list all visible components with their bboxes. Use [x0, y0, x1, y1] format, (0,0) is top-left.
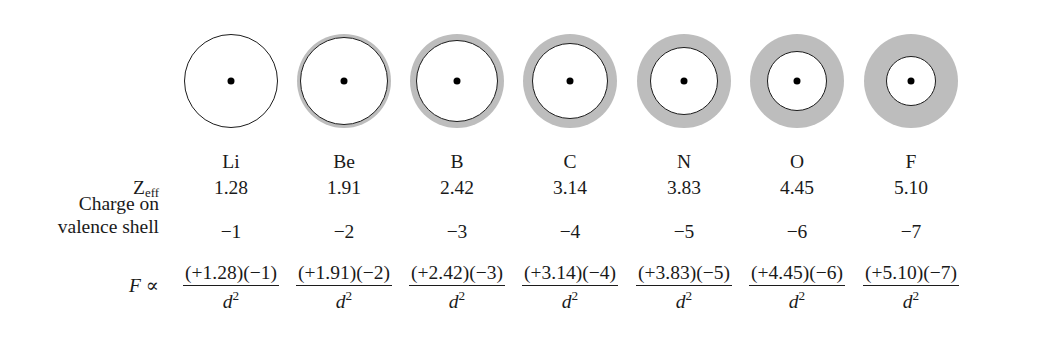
force-expression-o: (+4.45)(−6)d2	[741, 262, 853, 313]
force-expression-f: (+5.10)(−7)d2	[855, 262, 967, 313]
denominator: d2	[636, 286, 732, 313]
figure-root: LiBeBCNOF Zeff 1.281.912.423.143.834.455…	[0, 0, 1060, 355]
denominator: d2	[296, 286, 392, 313]
denominator: d2	[183, 286, 279, 313]
element-symbol-f: F	[855, 150, 967, 173]
force-row-label: F ∝	[129, 274, 159, 297]
atom-n	[637, 34, 731, 128]
zeff-value-li: 1.28	[175, 176, 287, 199]
zeff-value-n: 3.83	[628, 176, 740, 199]
zeff-value-be: 1.91	[288, 176, 400, 199]
element-symbol-be: Be	[288, 150, 400, 173]
force-expression-c: (+3.14)(−4)d2	[514, 262, 626, 313]
numerator: (+1.91)(−2)	[296, 262, 392, 286]
valence-charge-b: −3	[401, 220, 513, 243]
element-symbol-n: N	[628, 150, 740, 173]
atom-f	[864, 34, 958, 128]
nucleus-dot	[454, 78, 461, 85]
nucleus-dot	[341, 78, 348, 85]
charge-label-line2: valence shell	[58, 216, 159, 237]
valence-charge-row: Charge on valence shell −1−2−3−4−5−6−7	[0, 206, 1060, 262]
numerator: (+1.28)(−1)	[183, 262, 279, 286]
numerator: (+5.10)(−7)	[863, 262, 959, 286]
charge-row-label: Charge on valence shell	[58, 192, 159, 238]
force-expression-b: (+2.42)(−3)d2	[401, 262, 513, 313]
atom-li	[184, 34, 278, 128]
nucleus-dot	[794, 78, 801, 85]
zeff-value-f: 5.10	[855, 176, 967, 199]
numerator: (+3.83)(−5)	[636, 262, 732, 286]
numerator: (+4.45)(−6)	[749, 262, 845, 286]
denominator: d2	[863, 286, 959, 313]
force-expression-li: (+1.28)(−1)d2	[175, 262, 287, 313]
force-equation-row: F ∝ (+1.28)(−1)d2(+1.91)(−2)d2(+2.42)(−3…	[0, 262, 1060, 328]
zeff-value-b: 2.42	[401, 176, 513, 199]
element-symbol-c: C	[514, 150, 626, 173]
zeff-value-o: 4.45	[741, 176, 853, 199]
atom-b	[410, 34, 504, 128]
denominator: d2	[409, 286, 505, 313]
nucleus-dot	[681, 78, 688, 85]
valence-charge-li: −1	[175, 220, 287, 243]
valence-charge-f: −7	[855, 220, 967, 243]
proportional-symbol: ∝	[146, 275, 159, 296]
force-expression-be: (+1.91)(−2)d2	[288, 262, 400, 313]
denominator: d2	[749, 286, 845, 313]
denominator: d2	[522, 286, 618, 313]
numerator: (+3.14)(−4)	[522, 262, 618, 286]
force-expression-n: (+3.83)(−5)d2	[628, 262, 740, 313]
atom-diagram-row	[0, 0, 1060, 150]
element-symbol-b: B	[401, 150, 513, 173]
nucleus-dot	[567, 78, 574, 85]
atom-be	[297, 34, 391, 128]
zeff-value-c: 3.14	[514, 176, 626, 199]
nucleus-dot	[228, 78, 235, 85]
zeff-row: Zeff 1.281.912.423.143.834.455.10	[0, 176, 1060, 206]
valence-charge-o: −6	[741, 220, 853, 243]
element-symbol-li: Li	[175, 150, 287, 173]
numerator: (+2.42)(−3)	[409, 262, 505, 286]
valence-charge-c: −4	[514, 220, 626, 243]
element-symbol-row: LiBeBCNOF	[0, 150, 1060, 176]
valence-charge-n: −5	[628, 220, 740, 243]
atom-c	[523, 34, 617, 128]
nucleus-dot	[908, 78, 915, 85]
charge-label-line1: Charge on	[79, 193, 159, 214]
element-symbol-o: O	[741, 150, 853, 173]
force-symbol: F	[129, 275, 141, 296]
atom-o	[750, 34, 844, 128]
valence-charge-be: −2	[288, 220, 400, 243]
data-table: LiBeBCNOF Zeff 1.281.912.423.143.834.455…	[0, 150, 1060, 328]
